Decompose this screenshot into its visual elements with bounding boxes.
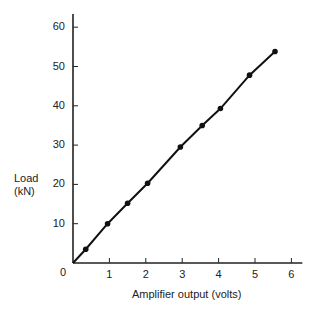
x-axis-label: Amplifier output (volts) [132,288,241,300]
data-point-marker [272,49,278,55]
y-tick-label: 50 [41,60,65,72]
y-tick-label: 20 [41,177,65,189]
y-tick-label: 40 [41,99,65,111]
x-tick-label: 6 [283,268,299,280]
data-point-marker [218,106,224,112]
y-axis-label-line1: Load [14,172,38,184]
series-line [73,52,275,263]
y-axis-label-line2: (kN) [14,185,35,197]
data-point-marker [178,144,184,150]
y-tick-label: 30 [41,138,65,150]
data-point-marker [105,221,111,227]
data-point-marker [145,180,151,186]
data-point-marker [83,246,89,252]
x-tick-label: 3 [174,268,190,280]
y-tick-label: 60 [41,20,65,32]
x-tick-label: 2 [138,268,154,280]
data-point-marker [247,72,253,78]
origin-label: 0 [60,266,66,278]
plot-area [0,0,319,313]
x-tick-label: 4 [211,268,227,280]
data-point-marker [199,123,205,129]
data-point-marker [125,200,131,206]
x-tick-label: 1 [101,268,117,280]
y-tick-label: 10 [41,217,65,229]
x-tick-label: 5 [247,268,263,280]
